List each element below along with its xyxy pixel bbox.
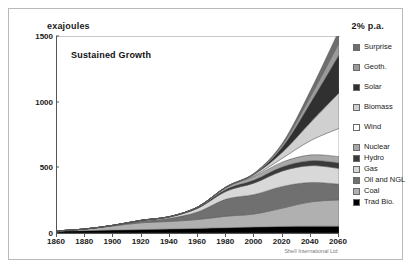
legend-item-label: Oil and NGL: [364, 176, 405, 184]
legend-item[interactable]: Wind: [353, 122, 413, 132]
legend-item[interactable]: Nuclear: [353, 142, 413, 152]
x-axis-tick-mark: [310, 233, 311, 237]
legend-item-label: Coal: [364, 187, 379, 195]
legend-item[interactable]: Surprise: [353, 42, 413, 52]
legend-item[interactable]: Oil and NGL: [353, 175, 413, 185]
legend-item-label: Geoth.: [364, 63, 387, 71]
legend-item-label: Wind: [364, 123, 381, 131]
legend-item[interactable]: Biomass: [353, 102, 413, 112]
plot-area: Sustained Growth: [56, 36, 339, 234]
y-axis-tick-mark: [56, 167, 59, 168]
y-axis-tick-label: 1000: [35, 97, 53, 106]
legend-item[interactable]: Trad Bio.: [353, 197, 413, 207]
x-axis-tick-mark: [84, 233, 85, 237]
legend-item-label: Surprise: [364, 43, 392, 51]
source-credit: Shell International Ltd: [251, 248, 371, 254]
x-axis-tick-mark: [225, 233, 226, 237]
chart-legend: SurpriseGeoth.SolarBiomassWindNuclearHyd…: [353, 42, 413, 208]
x-axis-tick-mark: [282, 233, 283, 237]
legend-item-label: Nuclear: [364, 143, 390, 151]
legend-swatch-icon: [353, 44, 360, 51]
legend-swatch-icon: [353, 124, 360, 131]
legend-swatch-icon: [353, 144, 360, 151]
x-axis-tick-mark: [338, 233, 339, 237]
legend-item[interactable]: Coal: [353, 186, 413, 196]
legend-swatch-icon: [353, 84, 360, 91]
x-axis-tick-label: 1880: [75, 237, 93, 246]
legend-swatch-icon: [353, 188, 360, 195]
legend-swatch-icon: [353, 177, 360, 184]
legend-swatch-icon: [353, 166, 360, 173]
x-axis-tick-mark: [253, 233, 254, 237]
legend-item-label: Hydro: [364, 154, 384, 162]
x-axis-tick-mark: [141, 233, 142, 237]
legend-swatch-icon: [353, 104, 360, 111]
y-axis-tick-mark: [56, 36, 59, 37]
x-axis-tick-label: 1980: [216, 237, 234, 246]
y-axis-tick-label: 500: [40, 163, 53, 172]
legend-swatch-icon: [353, 155, 360, 162]
legend-item[interactable]: Solar: [353, 82, 413, 92]
x-axis-tick-mark: [56, 233, 57, 237]
legend-item-label: Gas: [364, 165, 378, 173]
x-axis-tick-label: 1900: [103, 237, 121, 246]
legend-item[interactable]: Geoth.: [353, 62, 413, 72]
figure-frame: exajoules 2% p.a. 050010001500 Sustained…: [8, 8, 403, 260]
x-axis-tick-label: 1960: [188, 237, 206, 246]
stacked-area-svg: [57, 36, 339, 233]
legend-item[interactable]: Gas: [353, 164, 413, 174]
growth-rate-label: 2% p.a.: [352, 21, 384, 31]
x-axis-tick-label: 1920: [132, 237, 150, 246]
stacked-area-canvas: [57, 36, 339, 233]
legend-item[interactable]: Hydro: [353, 153, 413, 163]
x-axis-tick-mark: [197, 233, 198, 237]
x-axis-tick-label: 2020: [273, 237, 291, 246]
x-axis-tick-mark: [112, 233, 113, 237]
x-axis-tick-mark: [169, 233, 170, 237]
legend-item-label: Trad Bio.: [364, 198, 394, 206]
legend-item-label: Biomass: [364, 103, 393, 111]
x-axis-tick-label: 1860: [47, 237, 65, 246]
legend-item-label: Solar: [364, 83, 382, 91]
x-axis-tick-label: 2060: [329, 237, 347, 246]
y-axis: 050010001500: [23, 36, 53, 233]
y-axis-units-label: exajoules: [47, 21, 90, 31]
y-axis-tick-mark: [56, 101, 59, 102]
x-axis-tick-label: 2000: [244, 237, 262, 246]
x-axis-tick-label: 2040: [301, 237, 319, 246]
chart-scenario-title: Sustained Growth: [71, 50, 151, 60]
x-axis-tick-label: 1940: [160, 237, 178, 246]
legend-swatch-icon: [353, 64, 360, 71]
legend-swatch-icon: [353, 199, 360, 206]
y-axis-tick-label: 1500: [35, 32, 53, 41]
